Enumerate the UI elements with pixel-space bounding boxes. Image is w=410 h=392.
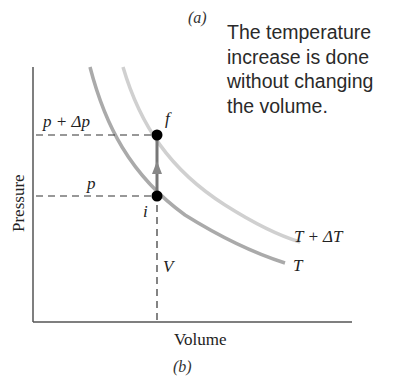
note-line: without changing [227,69,410,94]
point-initial [152,191,163,202]
annotation-note: The temperature increase is done without… [227,20,410,118]
label-p-final: p + Δp [42,112,90,131]
x-axis-label: Volume [174,330,227,349]
panel-label-a: (a) [188,9,207,27]
label-volume-v: V [163,257,176,276]
point-final [152,130,163,141]
label-isotherm-upper: T + ΔT [294,227,344,246]
y-axis-label: Pressure [9,174,28,232]
label-p-initial: p [86,174,96,193]
label-isotherm-lower: T [293,256,304,275]
note-line: the volume. [227,94,410,119]
label-i: i [143,202,148,221]
note-line: The temperature [227,20,410,45]
up-arrow-icon [152,161,162,174]
panel-label-b: (b) [173,358,192,376]
note-line: increase is done [227,45,410,70]
label-f: f [165,109,172,128]
